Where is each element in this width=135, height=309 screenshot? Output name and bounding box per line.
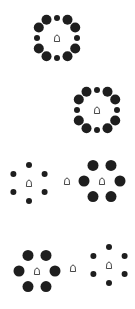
small-dot [94,87,100,93]
large-dot [41,250,52,261]
panel-4 [14,244,128,292]
target-shape [34,268,39,275]
panel-2 [74,87,120,133]
small-dot [42,171,48,177]
small-dot [90,253,96,259]
small-dot [42,189,48,195]
small-dot [74,35,80,41]
small-dot [26,162,32,168]
target-shape [106,262,111,269]
target-shape [26,180,31,187]
target-shape [99,178,104,185]
large-dot [42,51,52,61]
small-dot [114,107,120,113]
small-dot [94,127,100,133]
small-dot [74,107,80,113]
large-dot [82,87,92,97]
small-dot [26,198,32,204]
large-dot [103,87,113,97]
large-dot [88,160,99,171]
large-dot [14,266,25,277]
cluster-mixed [34,15,80,61]
panel-1 [34,15,80,61]
small-dot [54,55,60,61]
large-dot [74,95,84,105]
large-dot [63,15,73,25]
target-shape [54,35,59,42]
small-dot [34,35,40,41]
large-dot [115,176,126,187]
target-shape [64,178,69,185]
large-dot [74,116,84,126]
small-dot [106,244,112,250]
cluster-large [79,160,126,202]
small-dot [106,280,112,286]
small-dot [54,15,60,21]
large-dot [50,266,61,277]
large-dot [34,23,44,33]
large-dot [110,116,120,126]
ebbinghaus-figure [0,0,135,309]
small-dot [10,171,16,177]
large-dot [70,23,80,33]
large-dot [106,191,117,202]
cluster-large [14,250,61,292]
large-dot [70,44,80,54]
target-shape [70,265,75,272]
large-dot [42,15,52,25]
large-dot [23,281,34,292]
large-dot [63,51,73,61]
small-dot [90,271,96,277]
cluster-small [90,244,127,286]
large-dot [106,160,117,171]
large-dot [23,250,34,261]
large-dot [103,123,113,133]
large-dot [110,95,120,105]
large-dot [79,176,90,187]
large-dot [34,44,44,54]
small-dot [10,189,16,195]
cluster-none [64,178,69,185]
small-dot [122,271,128,277]
large-dot [82,123,92,133]
large-dot [41,281,52,292]
large-dot [88,191,99,202]
cluster-mixed [74,87,120,133]
cluster-small [10,162,47,204]
cluster-none [70,265,75,272]
panel-3 [10,160,125,204]
small-dot [122,253,128,259]
target-shape [94,107,99,114]
